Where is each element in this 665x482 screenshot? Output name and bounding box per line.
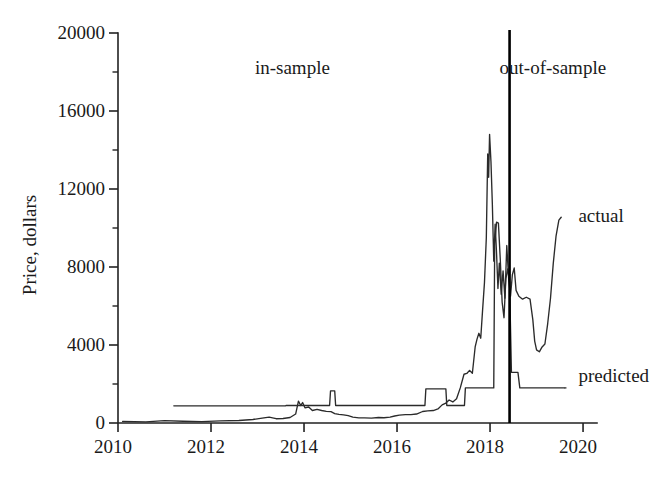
y-tick-label-12000: 12000 xyxy=(58,179,106,198)
series-line-actual xyxy=(123,134,562,421)
figure-container: Price, dollars 0400080001200016000200002… xyxy=(0,0,665,482)
series-label-predicted: predicted xyxy=(578,366,649,385)
series-line-predicted xyxy=(174,222,565,406)
series-group xyxy=(123,134,565,421)
y-tick-label-8000: 8000 xyxy=(67,257,105,276)
y-tick-label-20000: 20000 xyxy=(58,23,106,42)
y-tick-label-16000: 16000 xyxy=(58,101,106,120)
x-tick-label-2010: 2010 xyxy=(94,437,132,456)
y-axis-title: Price, dollars xyxy=(19,195,40,295)
x-tick-label-2020: 2020 xyxy=(559,437,597,456)
x-tick-label-2016: 2016 xyxy=(373,437,411,456)
y-axis-title-text: Price, dollars xyxy=(19,195,40,295)
annotation-in-sample: in-sample xyxy=(255,58,330,77)
x-tick-label-2014: 2014 xyxy=(280,437,318,456)
y-tick-label-0: 0 xyxy=(96,413,106,432)
axes-group xyxy=(109,33,597,432)
axis-spines xyxy=(118,33,597,423)
y-tick-label-4000: 4000 xyxy=(67,335,105,354)
annotation-out-of-sample: out-of-sample xyxy=(500,58,607,77)
series-label-actual: actual xyxy=(578,206,623,225)
x-tick-label-2018: 2018 xyxy=(466,437,504,456)
x-tick-label-2012: 2012 xyxy=(187,437,225,456)
